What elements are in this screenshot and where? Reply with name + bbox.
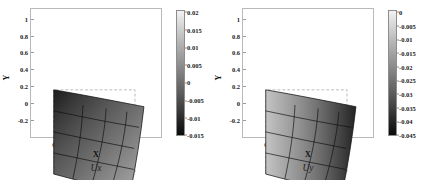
- plot-frame-uy: 1 0.8 0.6 0.4 0.2 0 -0.2 0 0.5 1: [242, 8, 374, 138]
- colorbar-uy: 0 -0.005 -0.01 -0.015 -0.02 -0.025 -0.03…: [388, 10, 397, 136]
- figure-root: Y 1 0.8 0.6 0.4 0.2 0 -0.2 0 0.5 1: [0, 0, 424, 180]
- colorbar-gradient-uy: [388, 10, 397, 136]
- plot-frame-ux: 1 0.8 0.6 0.4 0.2 0 -0.2 0 0.5 1: [30, 8, 162, 138]
- colorbar-tick-ux-7: -0.015: [187, 131, 204, 138]
- colorbar-tick-uy-4: -0.02: [399, 63, 413, 70]
- colorbar-tick-uy-0: 0: [399, 8, 402, 15]
- colorbar-tick-uy-3: -0.015: [399, 49, 416, 56]
- colorbar-tick-ux-1: 0.015: [187, 26, 202, 33]
- y-axis-label-ux: Y: [2, 75, 11, 81]
- contour-plot-uy: [243, 9, 373, 137]
- colorbar-tick-uy-5: -0.025: [399, 77, 416, 84]
- y-tick-ux-4: 0.2: [20, 83, 28, 90]
- y-tick-uy-1: 0.8: [232, 32, 240, 39]
- colorbar-tick-ux-5: -0.005: [187, 97, 204, 104]
- y-tick-uy-2: 0.6: [232, 49, 240, 56]
- x-axis-label-uy: X: [242, 150, 374, 159]
- colorbar-tick-ux-0: 0.02: [187, 8, 198, 15]
- y-tick-uy-6: -0.2: [230, 116, 240, 123]
- panel-ux: Y 1 0.8 0.6 0.4 0.2 0 -0.2 0 0.5 1: [0, 0, 212, 180]
- colorbar-tick-uy-9: -0.045: [399, 131, 416, 138]
- colorbar-ux: 0.02 0.015 0.01 0.005 0 -0.005 -0.01 -0.…: [176, 10, 185, 136]
- colorbar-tick-uy-6: -0.03: [399, 90, 413, 97]
- y-tick-uy-4: 0.2: [232, 83, 240, 90]
- y-tick-ux-2: 0.6: [20, 49, 28, 56]
- colorbar-tick-uy-8: -0.04: [399, 118, 413, 125]
- panel-title-ux: Ux: [20, 163, 172, 173]
- colorbar-tick-uy-2: -0.01: [399, 36, 413, 43]
- y-tick-ux-6: -0.2: [18, 116, 28, 123]
- colorbar-tick-uy-7: -0.035: [399, 104, 416, 111]
- colorbar-tick-ux-6: -0.01: [187, 114, 201, 121]
- colorbar-tick-ux-2: 0.01: [187, 44, 198, 51]
- panel-title-uy: Uy: [232, 163, 384, 173]
- y-tick-uy-0: 1: [237, 15, 240, 22]
- y-tick-ux-1: 0.8: [20, 32, 28, 39]
- colorbar-tick-uy-1: -0.005: [399, 22, 416, 29]
- y-tick-ux-5: 0: [25, 99, 28, 106]
- y-tick-ux-3: 0.4: [20, 66, 28, 73]
- y-tick-ux-0: 1: [25, 15, 28, 22]
- panel-uy: Y 1 0.8 0.6 0.4 0.2 0 -0.2 0 0.5 1: [212, 0, 424, 180]
- x-axis-label-ux: X: [30, 150, 162, 159]
- colorbar-tick-ux-3: 0.005: [187, 61, 202, 68]
- y-tick-uy-3: 0.4: [232, 66, 240, 73]
- y-axis-label-uy: Y: [214, 75, 223, 81]
- y-tick-uy-5: 0: [237, 99, 240, 106]
- colorbar-tick-ux-4: 0: [187, 79, 190, 86]
- contour-plot-ux: [31, 9, 161, 137]
